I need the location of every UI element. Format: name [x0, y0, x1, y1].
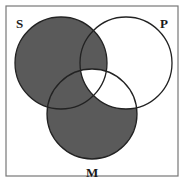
label-m: M: [86, 165, 98, 180]
label-s: S: [16, 16, 23, 31]
label-p: P: [160, 16, 168, 31]
venn-diagram: S P M: [0, 0, 189, 186]
